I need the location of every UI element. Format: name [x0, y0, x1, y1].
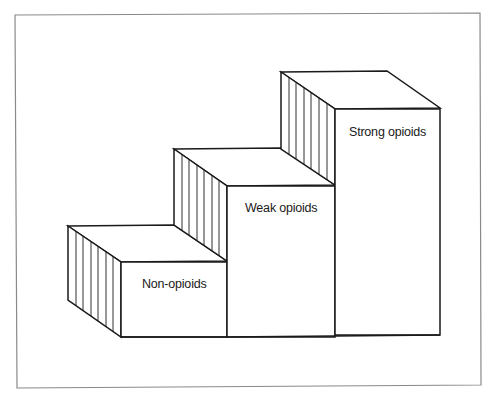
step-2-label: Weak opioids — [245, 201, 317, 215]
step-3-label: Strong opioids — [349, 125, 426, 139]
step-1-front-face — [121, 262, 227, 337]
step-1-label: Non-opioids — [142, 277, 207, 291]
analgesic-ladder-diagram: Non-opioids Weak opioids Strong opioids — [0, 0, 496, 401]
step-3-front-face — [335, 109, 440, 335]
